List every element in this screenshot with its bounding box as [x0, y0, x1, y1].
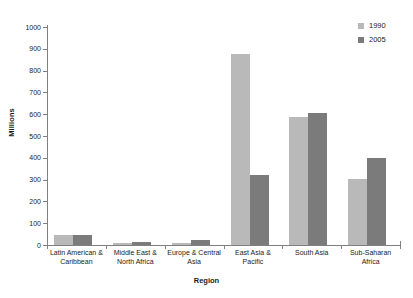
y-axis-title: Millions	[7, 93, 16, 153]
bar-1990	[113, 243, 132, 245]
y-tick-label-0: 0	[10, 242, 41, 249]
x-category-label: South Asia	[280, 249, 344, 258]
x-category-label: Europe & CentralAsia	[162, 249, 226, 266]
bar-group	[47, 27, 106, 245]
x-category-label-line: South Asia	[280, 249, 344, 258]
bar-2005	[367, 158, 386, 245]
bar-2005	[73, 235, 92, 245]
x-category-label-line: Asia	[162, 258, 226, 267]
legend-swatch-icon	[358, 37, 364, 43]
legend-label: 2005	[369, 36, 386, 44]
bar-2005	[308, 113, 327, 245]
bar-2005	[132, 242, 151, 245]
bar-2005	[250, 175, 269, 245]
legend-swatch-icon	[358, 23, 364, 29]
y-tick-label-900: 900	[10, 45, 41, 52]
x-category-label-line: Middle East &	[103, 249, 167, 258]
y-tick-label-1000: 1000	[10, 24, 41, 31]
x-category-label-line: North Africa	[103, 258, 167, 267]
legend-item-1990[interactable]: 1990	[358, 20, 406, 31]
chart-legend: 19902005	[358, 20, 406, 48]
bar-1990	[231, 54, 250, 245]
y-tick-label-300: 300	[10, 176, 41, 183]
legend-item-2005[interactable]: 2005	[358, 34, 406, 45]
y-tick-label-400: 400	[10, 154, 41, 161]
bar-chart: Millions 0100200300400500600700800900100…	[0, 0, 413, 298]
plot-area	[47, 27, 400, 245]
x-category-label-line: Latin American &	[44, 249, 108, 258]
y-tick-label-700: 700	[10, 89, 41, 96]
y-tick-label-200: 200	[10, 198, 41, 205]
x-category-label: East Asia &Pacific	[221, 249, 285, 266]
bar-1990	[348, 179, 367, 245]
bar-group	[282, 27, 341, 245]
x-axis-title: Region	[0, 276, 413, 285]
x-category-label: Middle East &North Africa	[103, 249, 167, 266]
x-category-label-line: Pacific	[221, 258, 285, 267]
y-tick-label-100: 100	[10, 220, 41, 227]
bar-group	[341, 27, 400, 245]
x-category-label-line: Caribbean	[44, 258, 108, 267]
x-category-label-line: Sub-Saharan	[339, 249, 403, 258]
bar-group	[106, 27, 165, 245]
x-category-label: Sub-SaharanAfrica	[339, 249, 403, 266]
y-tick-label-500: 500	[10, 133, 41, 140]
bar-2005	[191, 240, 210, 245]
y-tick-label-600: 600	[10, 111, 41, 118]
x-category-label: Latin American &Caribbean	[44, 249, 108, 266]
y-tick-label-800: 800	[10, 67, 41, 74]
x-category-label-line: Europe & Central	[162, 249, 226, 258]
bar-1990	[54, 235, 73, 245]
bar-1990	[172, 243, 191, 245]
bar-group	[224, 27, 283, 245]
x-category-label-line: Africa	[339, 258, 403, 267]
bar-1990	[289, 117, 308, 245]
bar-group	[165, 27, 224, 245]
x-category-label-line: East Asia &	[221, 249, 285, 258]
legend-label: 1990	[369, 22, 386, 30]
